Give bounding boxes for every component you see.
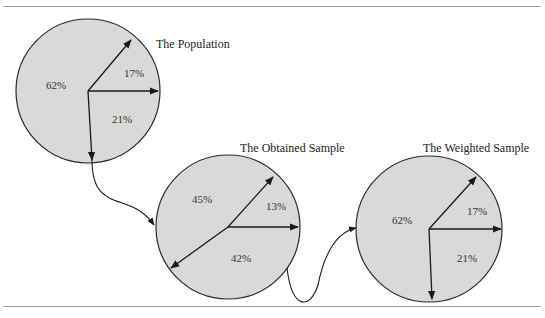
weighted-slice-label: 62% bbox=[392, 214, 412, 226]
obtained-slice-label: 42% bbox=[231, 252, 251, 264]
obtained-slice-label: 45% bbox=[192, 193, 212, 205]
weighted-slice-label: 17% bbox=[467, 205, 487, 217]
obtained-sample-title: The Obtained Sample bbox=[240, 141, 345, 156]
population-slice-label: 62% bbox=[46, 79, 66, 91]
weighted-slice-label: 21% bbox=[457, 252, 477, 264]
population-title: The Population bbox=[156, 37, 230, 52]
weighted-sample-title: The Weighted Sample bbox=[423, 141, 529, 156]
flow-connector-1 bbox=[92, 160, 154, 225]
obtained-slice-label: 13% bbox=[266, 200, 286, 212]
weighted-sample-pie bbox=[356, 156, 502, 302]
diagram-canvas bbox=[0, 0, 545, 318]
population-pie bbox=[16, 19, 160, 163]
population-slice-label: 17% bbox=[124, 67, 144, 79]
obtained-sample-pie bbox=[156, 155, 300, 299]
population-slice-label: 21% bbox=[112, 113, 132, 125]
